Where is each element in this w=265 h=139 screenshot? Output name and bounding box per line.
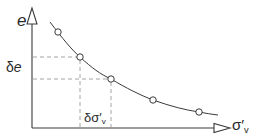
data-point-marker (150, 97, 156, 103)
data-point-marker (55, 29, 61, 35)
data-point-marker (77, 54, 83, 60)
delta-e-variable: e (14, 59, 22, 75)
delta-e-label: δe (6, 60, 22, 74)
y-axis-arrow-icon (27, 8, 37, 24)
y-axis (27, 8, 37, 128)
y-axis-label: e (17, 12, 26, 29)
x-axis-arrow-icon (214, 124, 230, 133)
x-axis-label: σ′v (232, 117, 249, 132)
delta-sigma-label: δσ′v (84, 111, 106, 124)
delta-sigma-subscript: v (102, 117, 106, 126)
x-axis-label-subscript: v (244, 125, 249, 135)
compression-curve (50, 22, 218, 115)
data-point-marker (196, 109, 202, 115)
e-log-sigma-diagram (0, 0, 265, 139)
data-point-marker (108, 76, 114, 82)
x-axis-label-symbol: σ′ (232, 116, 244, 133)
delta-e-prefix: δ (6, 59, 14, 75)
data-points (55, 29, 202, 115)
x-axis (32, 124, 230, 133)
delta-sigma-symbol: δσ′ (84, 110, 102, 125)
